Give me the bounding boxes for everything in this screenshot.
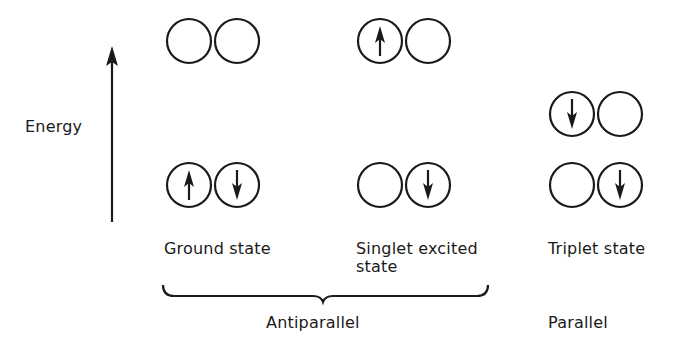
singlet-state-label-line2: state: [356, 258, 398, 275]
triplet-state-label: Triplet state: [548, 240, 645, 257]
empty-orbital-icon: [358, 163, 402, 207]
energy-axis-label: Energy: [25, 118, 82, 135]
ground-state-label: Ground state: [164, 240, 271, 257]
empty-orbital-icon: [550, 163, 594, 207]
energy-diagram: [0, 0, 689, 339]
parallel-group-label: Parallel: [548, 314, 608, 331]
empty-orbital-icon: [215, 19, 259, 63]
singlet-state-label-line1: Singlet excited: [356, 240, 478, 257]
spin-down-orbital-icon: [406, 163, 450, 207]
spin-down-orbital-icon: [598, 163, 642, 207]
ground-state-lower-level: [167, 163, 259, 207]
triplet-state-upper-level: [550, 92, 642, 136]
empty-orbital-icon: [406, 19, 450, 63]
spin-down-orbital-icon: [215, 163, 259, 207]
ground-state-upper-level: [167, 19, 259, 63]
energy-axis-arrow: [106, 46, 118, 222]
antiparallel-group-label: Antiparallel: [266, 314, 360, 331]
antiparallel-brace: [163, 285, 488, 302]
singlet-state-lower-level: [358, 163, 450, 207]
singlet-state-upper-level: [358, 19, 450, 63]
empty-orbital-icon: [598, 92, 642, 136]
spin-up-orbital-icon: [167, 163, 211, 207]
triplet-state-lower-level: [550, 163, 642, 207]
spin-up-orbital-icon: [358, 19, 402, 63]
spin-down-orbital-icon: [550, 92, 594, 136]
empty-orbital-icon: [167, 19, 211, 63]
